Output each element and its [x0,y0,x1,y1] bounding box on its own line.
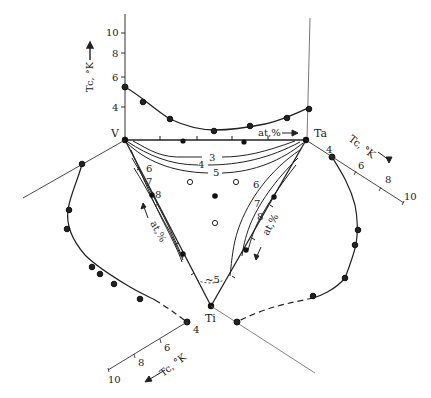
interior-points [187,179,238,225]
ti-left-tick-8: 8 [138,357,144,368]
svg-text:4: 4 [112,102,118,113]
left-at-percent-label: at,% [148,219,168,244]
svg-text:10: 10 [106,27,119,38]
svg-text:at,%: at,% [148,219,168,244]
ta-ti-tc-curve [313,157,357,298]
v-tc-axis-label: Tc, °K [84,61,95,92]
ti-left-tick-4: 4 [193,324,199,335]
ta-tc-axis [306,140,404,205]
svg-text:Tc, °K: Tc, °K [347,133,378,161]
isotherm-label-6-left: 6 [146,163,152,174]
down-left-arrow-icon [254,247,261,260]
v-ti-tc-curve [68,164,155,300]
up-left-arrow-icon [141,203,148,218]
ta-tick-6: 6 [358,160,364,171]
isotherm-label-6-right: 6 [253,179,259,190]
isotherm-label-5: 5 [213,167,219,178]
isotherm-label-3: 3 [209,152,215,163]
ti-left-tick-6: 6 [164,342,170,353]
v-ta-data-points [122,84,312,134]
v-ta-edge-points [180,138,246,144]
vertex-label-ta: Ta [314,127,327,140]
v-ta-at-percent-label: at,% [258,127,281,138]
ta-tick-4: 4 [326,144,332,155]
ta-ti-tc-curve-dashed [237,298,313,322]
isotherm-label-4: 4 [198,159,204,170]
v-ta-tc-curve [125,87,308,130]
svg-text:Tc, °K: Tc, °K [157,351,188,379]
isotherm-label-7-right: 7 [254,198,260,209]
v-ti-data-points [64,161,190,325]
ta-vertical-axis [307,18,310,140]
v-tc-axis [121,14,125,140]
right-arrow-icon [282,130,298,136]
ternary-diagram: 10 8 6 4 Tc, °K at,% [0,0,431,398]
svg-text:8: 8 [112,48,118,59]
ti-left-tick-10: 10 [108,374,121,385]
ta-tick-10: 10 [404,191,417,202]
right-edge-ticks [232,205,273,278]
ta-tick-8: 8 [385,174,391,185]
down-right-arrow-icon [378,152,392,163]
isotherm-label-8-left: 8 [155,189,161,200]
vertex-label-ti: Ti [205,312,216,325]
ti-right-axis [211,306,315,373]
svg-text:6: 6 [112,72,118,83]
isotherm-label-7-left: 7 [146,176,152,187]
isotherm-label-5-near-ti: ~5 [205,274,220,285]
vertex-label-v: V [110,127,120,140]
v-ti-tc-curve-dashed [155,300,187,322]
up-arrow-icon [87,42,93,60]
isotherm-label-8-right: 8 [257,211,263,222]
ti-left-tc-label: Tc, °K [157,351,188,379]
v-tc-axis-ticks: 10 8 6 4 [106,27,119,113]
svg-text:Tc, °K: Tc, °K [84,61,95,92]
ta-tc-label: Tc, °K [347,133,378,161]
